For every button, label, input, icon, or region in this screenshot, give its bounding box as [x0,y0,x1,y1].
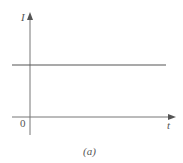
y-axis-arrow-icon [27,12,33,20]
x-axis-label: t [167,119,171,131]
chart-figure: I t 0 (a) [0,0,183,163]
y-axis-label: I [20,11,26,23]
origin-label: 0 [20,117,26,129]
figure-caption: (a) [83,145,96,158]
